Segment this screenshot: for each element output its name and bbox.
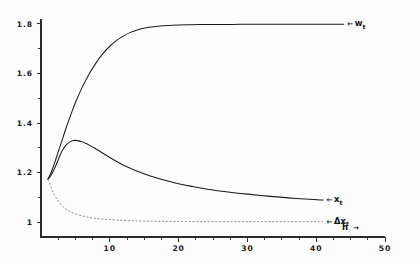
y-tick-label: 1.2 [17,168,33,177]
x-tick-label: 50 [379,244,391,253]
chart-figure: 11.21.41.61.81020304050←wt←xt←Δxth→ [0,0,420,267]
series-line-w_t [48,24,344,179]
y-tick-label: 1 [27,218,33,227]
x-tick-label: 10 [104,244,116,253]
series-label-x_t: xt [334,194,342,205]
series-line-x_t [48,140,323,200]
y-tick-label: 1.6 [17,69,33,78]
x-tick-label: 40 [310,244,322,253]
series-label-arrow-dx_t: ← [327,218,333,226]
series-line-dx_t [48,180,323,222]
x-tick-label: 30 [241,244,253,253]
x-tick-label: 20 [172,244,184,253]
axis-spines [41,19,385,237]
y-tick-label: 1.8 [17,20,33,29]
x-axis-label: h→ [342,222,359,232]
series-label-w_t: wt [355,18,366,29]
y-tick-label: 1.4 [17,119,33,128]
series-label-arrow-w_t: ← [347,20,353,28]
line-chart: 11.21.41.61.81020304050←wt←xt←Δxth→ [0,0,420,267]
series-label-arrow-x_t: ← [327,196,333,204]
